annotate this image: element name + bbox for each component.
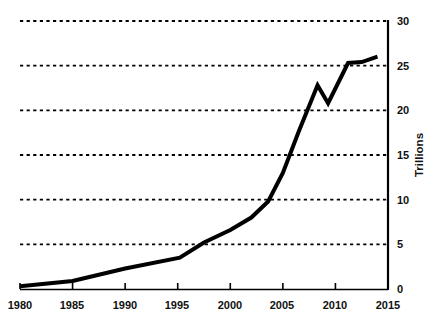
y-axis-title: Trillions	[413, 125, 425, 185]
y-tick-label-0: 0	[397, 284, 421, 295]
y-tick-label-10: 10	[397, 195, 421, 206]
x-tick-label-1980: 1980	[0, 300, 40, 311]
line-chart-plot	[0, 0, 439, 321]
y-tick-label-30: 30	[397, 16, 421, 27]
x-tick-label-1990: 1990	[105, 300, 145, 311]
x-tick-label-1985: 1985	[52, 300, 92, 311]
y-tick-label-25: 25	[397, 61, 421, 72]
x-tick-label-2010: 2010	[315, 300, 355, 311]
gridlines-group	[20, 21, 388, 244]
chart-container: 1980 1985 1990 1995 2000 2005 2010 2015 …	[0, 0, 439, 321]
data-series-line	[20, 57, 377, 287]
x-tick-label-2000: 2000	[210, 300, 250, 311]
x-tick-label-1995: 1995	[157, 300, 197, 311]
y-tick-label-20: 20	[397, 105, 421, 116]
y-tick-label-5: 5	[397, 239, 421, 250]
x-tick-label-2005: 2005	[262, 300, 302, 311]
x-axis-ticks-group	[20, 283, 388, 289]
x-tick-label-2015: 2015	[368, 300, 408, 311]
